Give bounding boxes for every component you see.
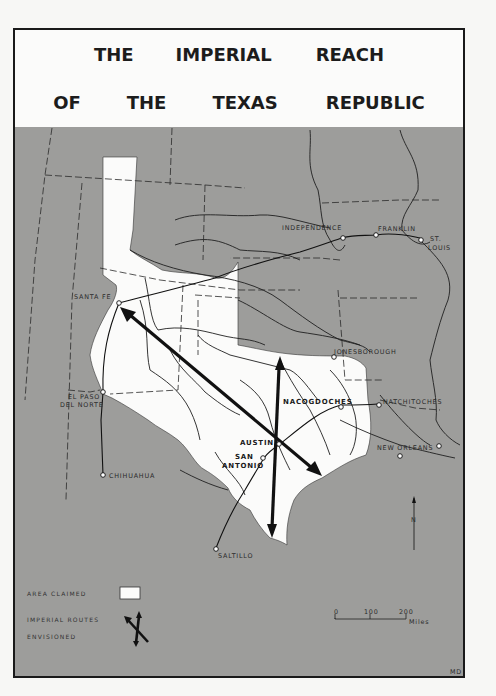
svg-text:0: 0 (334, 608, 339, 616)
credit: MD (450, 668, 462, 676)
scale-bar: 0 100 200 Miles (334, 608, 429, 626)
svg-text:200: 200 (399, 608, 414, 616)
legend: AREA CLAIMED IMPERIAL ROUTES ENVISIONED (27, 587, 148, 647)
label-san-antonio-2: ANTONIO (222, 462, 264, 470)
label-new-orleans: NEW ORLEANS (377, 444, 433, 452)
crossed-arrows-icon (124, 611, 148, 647)
svg-text:100: 100 (364, 608, 379, 616)
label-st-louis-1: ST. (430, 235, 442, 243)
label-austin: AUSTIN (240, 439, 274, 447)
svg-text:Miles: Miles (409, 618, 429, 626)
label-independence: INDEPENDENCE (282, 224, 342, 232)
svg-text:N: N (411, 516, 417, 524)
legend-routes-label-1: IMPERIAL ROUTES (27, 616, 99, 623)
label-chihuahua: CHIHUAHUA (109, 472, 155, 480)
label-st-louis-2: LOUIS (428, 244, 451, 252)
label-el-paso-1: EL PASO (68, 393, 100, 401)
north-arrow-icon: N (411, 496, 417, 550)
label-franklin: FRANKLIN (378, 225, 416, 233)
label-el-paso-2: DEL NORTE (60, 401, 103, 409)
legend-area-claimed-swatch (120, 587, 140, 599)
legend-routes-label-2: ENVISIONED (27, 633, 76, 640)
legend-area-claimed-label: AREA CLAIMED (27, 590, 87, 597)
label-jonesborough: JONESBOROUGH (333, 348, 397, 356)
map-canvas: INDEPENDENCE FRANKLIN ST. LOUIS SANTA FE… (0, 0, 496, 696)
label-san-antonio-1: SAN (235, 453, 254, 461)
label-nacogdoches: NACOGDOCHES (283, 398, 353, 406)
label-saltillo: SALTILLO (218, 552, 253, 560)
label-natchitoches: NATCHITOCHES (383, 398, 442, 406)
label-santa-fe: SANTA FE (74, 293, 111, 301)
